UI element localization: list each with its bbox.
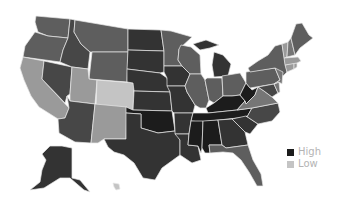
state-wy: [89, 52, 128, 82]
state-ks: [133, 91, 172, 111]
state-me: [291, 23, 313, 55]
state-mi-u: [193, 40, 219, 50]
state-fl: [209, 145, 263, 186]
state-ak: [30, 146, 90, 192]
state-nm: [91, 104, 127, 143]
state-nd: [128, 29, 164, 51]
legend-label-low: Low: [298, 158, 318, 170]
state-ri: [294, 63, 297, 69]
legend-swatch-low: [287, 161, 294, 168]
state-mi: [212, 52, 231, 77]
us-choropleth-map: [0, 0, 342, 201]
state-ma: [284, 57, 301, 65]
map-legend: High Low: [287, 146, 321, 170]
legend-item-low: Low: [287, 158, 321, 170]
state-hi: [113, 183, 120, 190]
legend-label-high: High: [298, 146, 321, 158]
legend-item-high: High: [287, 146, 321, 158]
legend-swatch-high: [287, 149, 294, 156]
